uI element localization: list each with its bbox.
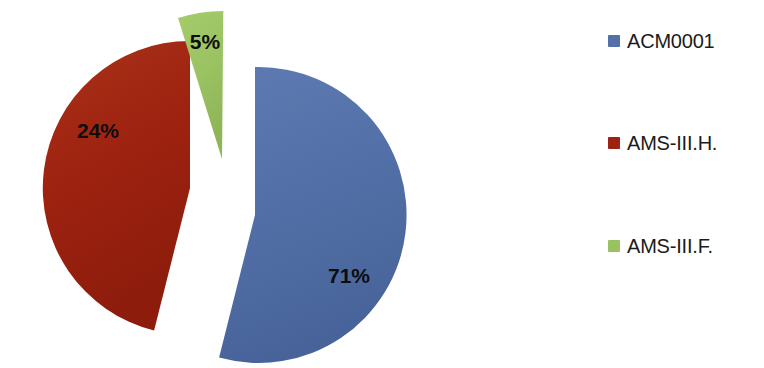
legend-swatch-icon-acm0001 — [608, 35, 620, 47]
legend-item-acm0001[interactable]: ACM0001 — [608, 28, 715, 54]
legend-swatch-icon-ams-iii-h — [608, 137, 620, 149]
legend-label-acm0001: ACM0001 — [627, 30, 715, 53]
pie-svg: 71% 24% 5% — [0, 0, 600, 368]
legend-item-ams-iii-f[interactable]: AMS-III.F. — [608, 233, 713, 259]
legend-item-ams-iii-h[interactable]: AMS-III.H. — [608, 130, 717, 156]
chart-legend: ACM0001 AMS-III.H. AMS-III.F. — [608, 0, 764, 368]
pie-slice-ams-iii-h[interactable] — [43, 41, 190, 331]
slice-label-ams-iii-h: 24% — [77, 119, 119, 142]
legend-label-ams-iii-h: AMS-III.H. — [627, 132, 717, 155]
pie-plot-area: 71% 24% 5% — [0, 0, 600, 368]
slice-label-ams-iii-f: 5% — [190, 30, 221, 53]
legend-swatch-icon-ams-iii-f — [608, 240, 620, 252]
pie-chart-figure: 71% 24% 5% ACM0001 AMS-III.H. AMS-III.F. — [0, 0, 764, 368]
pie-slice-acm0001[interactable] — [219, 67, 406, 363]
slice-label-acm0001: 71% — [328, 264, 370, 287]
legend-label-ams-iii-f: AMS-III.F. — [627, 235, 713, 258]
